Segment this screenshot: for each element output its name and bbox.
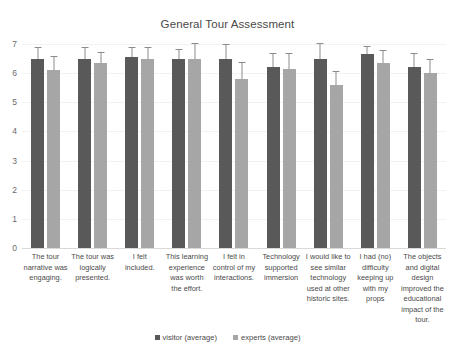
bar-slot	[47, 44, 60, 248]
bar[interactable]	[408, 67, 421, 248]
bars-layer	[22, 44, 446, 248]
error-bar-cap	[128, 47, 135, 48]
y-axis-tick-label: 3	[12, 156, 17, 165]
legend-label: visitor (average)	[163, 334, 217, 342]
bar-slot	[361, 44, 374, 248]
x-axis-tick-label: I felt included.	[116, 252, 163, 273]
error-bar-cap	[286, 53, 293, 54]
error-bar-cap	[144, 47, 151, 48]
bar-slot	[377, 44, 390, 248]
error-bar	[289, 54, 290, 69]
error-bar	[241, 63, 242, 79]
chart-title: General Tour Assessment	[0, 18, 455, 30]
error-bar	[383, 51, 384, 63]
bar-group	[352, 44, 399, 248]
y-axis-tick-label: 7	[12, 40, 17, 49]
bar[interactable]	[188, 59, 201, 248]
bar[interactable]	[78, 59, 91, 248]
bar[interactable]	[361, 54, 374, 248]
x-axis: The tour narrative was engaging.The tour…	[22, 252, 446, 326]
bar-slot	[141, 44, 154, 248]
error-bar	[320, 44, 321, 59]
bar-chart: General Tour Assessment 01234567 The tou…	[0, 0, 455, 360]
bar[interactable]	[235, 79, 248, 248]
error-bar-cap	[222, 44, 229, 45]
bar[interactable]	[424, 73, 437, 248]
error-bar-cap	[427, 59, 434, 60]
error-bar-cap	[364, 46, 371, 47]
bar[interactable]	[141, 59, 154, 248]
gridline	[22, 248, 446, 249]
bar-group	[22, 44, 69, 248]
error-bar	[100, 53, 101, 63]
chart-legend: visitor (average)experts (average)	[0, 334, 455, 342]
bar[interactable]	[172, 59, 185, 248]
bar[interactable]	[125, 57, 138, 248]
y-axis-tick-label: 5	[12, 98, 17, 107]
bar[interactable]	[31, 59, 44, 248]
error-bar-cap	[380, 50, 387, 51]
x-axis-tick-label: The tour narrative was engaging.	[22, 252, 69, 284]
bar-slot	[330, 44, 343, 248]
error-bar	[84, 48, 85, 58]
error-bar	[147, 48, 148, 58]
error-bar-cap	[238, 62, 245, 63]
error-bar	[336, 72, 337, 85]
bar-slot	[31, 44, 44, 248]
bar-slot	[235, 44, 248, 248]
x-axis-tick-label: This learning experience was worth the e…	[163, 252, 210, 294]
error-bar	[225, 45, 226, 58]
bar-slot	[94, 44, 107, 248]
error-bar	[273, 54, 274, 67]
x-axis-tick-label: Technology supported immersion	[258, 252, 305, 284]
bar-group	[258, 44, 305, 248]
y-axis: 01234567	[0, 44, 22, 248]
bar[interactable]	[283, 69, 296, 248]
x-axis-tick-label: I had (no) difficulty keeping up with my…	[352, 252, 399, 305]
y-axis-tick-label: 6	[12, 69, 17, 78]
bar[interactable]	[47, 70, 60, 248]
bar-group	[116, 44, 163, 248]
bar[interactable]	[377, 63, 390, 248]
bar-slot	[267, 44, 280, 248]
error-bar	[178, 50, 179, 59]
error-bar	[414, 54, 415, 67]
legend-swatch-icon	[233, 335, 238, 340]
y-axis-tick-label: 0	[12, 244, 17, 253]
bar[interactable]	[267, 67, 280, 248]
error-bar	[430, 60, 431, 73]
legend-item[interactable]: visitor (average)	[155, 334, 217, 342]
bar[interactable]	[330, 85, 343, 248]
error-bar-cap	[175, 49, 182, 50]
bar-slot	[125, 44, 138, 248]
plot-area	[22, 44, 446, 248]
error-bar-cap	[317, 43, 324, 44]
bar-group	[399, 44, 446, 248]
y-axis-tick-label: 1	[12, 215, 17, 224]
error-bar-cap	[97, 52, 104, 53]
error-bar	[367, 47, 368, 54]
bar[interactable]	[314, 59, 327, 248]
error-bar-cap	[270, 53, 277, 54]
legend-swatch-icon	[155, 335, 160, 340]
bar-group	[305, 44, 352, 248]
error-bar-cap	[333, 71, 340, 72]
bar-slot	[408, 44, 421, 248]
error-bar-cap	[34, 47, 41, 48]
legend-item[interactable]: experts (average)	[233, 334, 301, 342]
bar[interactable]	[219, 59, 232, 248]
legend-label: experts (average)	[241, 334, 301, 342]
y-axis-tick-label: 4	[12, 127, 17, 136]
bar[interactable]	[94, 63, 107, 248]
x-axis-tick-label: I felt in control of my interactions.	[210, 252, 257, 284]
error-bar-cap	[81, 47, 88, 48]
bar-slot	[283, 44, 296, 248]
y-axis-tick-label: 2	[12, 185, 17, 194]
bar-slot	[78, 44, 91, 248]
bar-group	[69, 44, 116, 248]
bar-slot	[424, 44, 437, 248]
bar-slot	[188, 44, 201, 248]
bar-slot	[219, 44, 232, 248]
error-bar	[37, 48, 38, 58]
bar-slot	[314, 44, 327, 248]
